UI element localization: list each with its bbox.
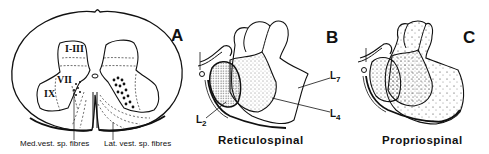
panel-b-title: Reticulospinal: [218, 134, 304, 146]
lateral-fibre-dots: [113, 77, 135, 109]
propriospinal-projection-drawing: [340, 0, 489, 154]
level-l7-label: L7: [330, 70, 341, 84]
panel-c-title: Propriospinal: [382, 134, 463, 146]
medial-vestibulospinal-caption: Med.vest. sp. fibres: [20, 139, 89, 148]
reticulospinal-projection-drawing: [190, 0, 350, 154]
panel-a: A I-III VII IX Med.vest. sp. fibres Lat.…: [0, 0, 200, 154]
panel-b: B L7 L4 L2 Reticulospinal: [190, 0, 350, 154]
panel-c-letter: C: [463, 28, 475, 48]
panel-c: C Propriospinal: [340, 0, 489, 154]
panel-a-letter: A: [171, 26, 183, 46]
spinal-cord-cross-section: [0, 0, 200, 154]
panel-b-letter: B: [326, 28, 338, 48]
level-l4-label: L4: [330, 108, 341, 122]
level-l2-label: L2: [196, 114, 207, 128]
lamina-i-iii-label: I-III: [65, 43, 84, 54]
lamina-vii-label: VII: [57, 74, 72, 85]
lateral-vestibulospinal-caption: Lat. vest. sp. fibres: [104, 139, 171, 148]
lamina-ix-label: IX: [44, 88, 55, 99]
